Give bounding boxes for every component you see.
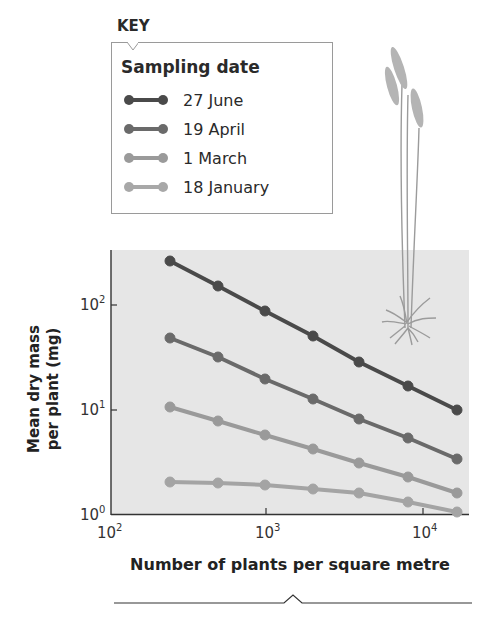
svg-text:102: 102 [97, 522, 122, 542]
svg-text:100: 100 [80, 504, 105, 524]
svg-text:104: 104 [412, 522, 437, 542]
grass-seedhead-icon [382, 46, 426, 129]
y-axis-label: Mean dry mass per plant (mg) [25, 299, 63, 479]
caption-divider [114, 595, 472, 603]
x-axis-label: Number of plants per square metre [111, 555, 469, 574]
plot-area [111, 250, 469, 514]
svg-text:103: 103 [255, 522, 280, 542]
svg-text:101: 101 [80, 399, 105, 419]
y-axis-label-line1: Mean dry mass [25, 299, 44, 479]
y-axis-label-line2: per plant (mg) [44, 299, 63, 479]
chart-plot: 102 101 100 102 103 104 [0, 0, 485, 621]
svg-text:102: 102 [80, 294, 105, 314]
